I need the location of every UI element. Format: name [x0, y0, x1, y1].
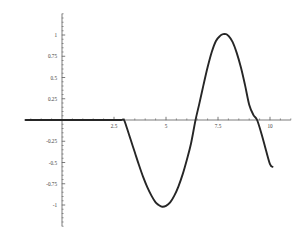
plot-canvas: 2.557.510 10.750.50.25-0.25-0.5-0.75-1	[0, 0, 306, 235]
y-tick-label: -0.25	[46, 138, 57, 144]
y-tick-label: 0.75	[48, 53, 57, 59]
x-tick-label: 10	[267, 123, 273, 129]
x-tick-label: 5	[165, 123, 168, 129]
y-tick-label: -0.5	[49, 160, 58, 166]
y-tick-label: 0.5	[51, 75, 58, 81]
x-tick-label: 2.5	[111, 123, 118, 129]
y-tick-label: -0.75	[46, 181, 57, 187]
y-tick-label: 1	[54, 32, 57, 38]
plot-figure: 2.557.510 10.750.50.25-0.25-0.5-0.75-1	[0, 0, 306, 235]
x-tick-label: 7.5	[215, 123, 222, 129]
y-tick-label: 0.25	[48, 96, 57, 102]
y-tick-label: -1	[53, 202, 58, 208]
